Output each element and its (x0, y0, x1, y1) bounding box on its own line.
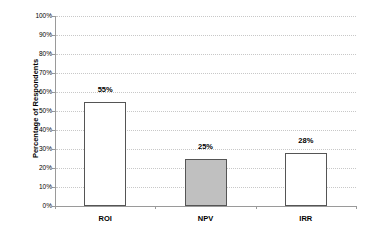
y-tick-label: 20% (20, 164, 52, 172)
y-tick-label: 0% (20, 202, 52, 210)
gridline (56, 54, 356, 55)
y-tick-label: 10% (20, 183, 52, 191)
y-tick-label: 30% (20, 145, 52, 153)
gridline (56, 73, 356, 74)
x-tick-mark (256, 206, 257, 209)
bar-irr (285, 153, 327, 206)
y-tick-label: 40% (20, 126, 52, 134)
category-label-npv: NPV (176, 214, 236, 223)
gridline (56, 35, 356, 36)
x-tick-mark (356, 206, 357, 209)
value-label-npv: 25% (176, 142, 236, 151)
x-axis-line (55, 206, 356, 207)
gridline (56, 16, 356, 17)
y-axis-line (55, 16, 56, 206)
value-label-roi: 55% (75, 85, 135, 94)
y-tick-label: 50% (20, 107, 52, 115)
y-tick-label: 70% (20, 69, 52, 77)
x-tick-mark (155, 206, 156, 209)
y-tick-label: 60% (20, 88, 52, 96)
y-tick-label: 80% (20, 50, 52, 58)
y-tick-label: 90% (20, 31, 52, 39)
value-label-irr: 28% (276, 136, 336, 145)
bar-roi (84, 102, 126, 207)
bar-chart: Percentage of Respondents 0%10%20%30%40%… (0, 0, 376, 235)
category-label-irr: IRR (276, 214, 336, 223)
x-tick-mark (55, 206, 56, 209)
bar-npv (185, 159, 227, 207)
category-label-roi: ROI (75, 214, 135, 223)
y-tick-label: 100% (20, 12, 52, 20)
